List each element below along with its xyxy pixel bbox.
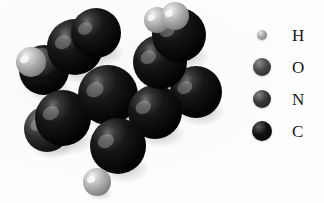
legend-label-hydrogen: H — [292, 27, 304, 44]
sphere-icon — [253, 90, 271, 108]
legend-row-carbon: C — [248, 116, 324, 146]
element-legend: HONC — [248, 20, 324, 152]
molecule-diagram — [0, 0, 240, 203]
sphere-icon — [253, 58, 271, 76]
sphere-icon — [257, 30, 267, 40]
molecular-model-figure: HONC — [0, 0, 324, 203]
legend-row-nitrogen: N — [248, 84, 324, 114]
sphere-icon — [252, 121, 272, 141]
legend-row-hydrogen: H — [248, 20, 324, 50]
atom-layer — [16, 2, 226, 201]
legend-label-oxygen: O — [292, 59, 304, 76]
legend-row-oxygen: O — [248, 52, 324, 82]
legend-label-nitrogen: N — [292, 91, 304, 108]
legend-label-carbon: C — [292, 123, 304, 140]
